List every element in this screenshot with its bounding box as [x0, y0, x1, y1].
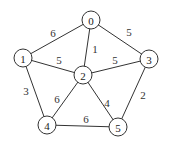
- node-0: 0: [82, 11, 100, 29]
- node-4: 4: [38, 116, 56, 134]
- node-label: 2: [80, 70, 86, 82]
- edge-weight-0-2: 1: [92, 43, 98, 55]
- edge-weight-2-3: 5: [112, 54, 118, 66]
- node-label: 3: [146, 54, 152, 66]
- edge-weight-0-3: 5: [126, 26, 132, 38]
- edge-weight-2-5: 4: [104, 97, 110, 109]
- edge-0-3: [91, 20, 149, 59]
- node-label: 1: [20, 53, 26, 65]
- node-2: 2: [74, 66, 92, 84]
- node-3: 3: [140, 50, 158, 68]
- edge-weight-0-1: 6: [50, 27, 56, 39]
- node-5: 5: [109, 118, 127, 136]
- edge-weight-1-2: 5: [56, 54, 62, 66]
- edge-weight-3-5: 2: [140, 89, 146, 101]
- edge-weight-4-5: 6: [83, 113, 89, 125]
- edge-weight-1-4: 3: [23, 85, 29, 97]
- node-1: 1: [14, 49, 32, 67]
- node-label: 4: [44, 120, 50, 132]
- edge-weight-2-4: 6: [54, 93, 60, 105]
- weighted-graph-diagram: 6155536426 012345: [0, 0, 171, 144]
- edge-4-5: [47, 125, 118, 127]
- node-label: 5: [115, 122, 121, 134]
- node-label: 0: [88, 15, 94, 27]
- edge-0-1: [23, 20, 91, 58]
